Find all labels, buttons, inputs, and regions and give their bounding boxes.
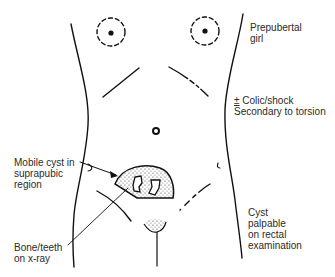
right-nipple	[202, 28, 207, 33]
right-body-outline	[225, 14, 243, 258]
right-inguinal-line	[180, 184, 210, 210]
label-cyst-palpable-rectal: Cyst palpable on rectal examination	[248, 207, 302, 251]
label-colic-shock: ± Colic/shock	[234, 95, 293, 106]
left-rib-margin	[103, 68, 139, 97]
suprapubic-cyst	[115, 166, 174, 198]
label-secondary-torsion: Secondary to torsion	[234, 106, 326, 117]
label-bone-teeth: Bone/teeth on x-ray	[14, 242, 62, 264]
left-inguinal-line	[97, 191, 131, 221]
arrowhead	[110, 171, 118, 178]
umbilicus	[153, 128, 159, 134]
pubic-hair-region	[145, 219, 166, 232]
right-hip-mark	[217, 163, 220, 168]
label-mobile-cyst: Mobile cyst in suprapubic region	[14, 157, 75, 190]
left-nipple	[108, 30, 113, 35]
right-rib-margin	[169, 67, 208, 96]
left-body-outline	[71, 24, 88, 267]
label-prepubertal-girl: Prepubertal girl	[250, 22, 302, 44]
colic-text: Colic/shock	[240, 95, 294, 106]
